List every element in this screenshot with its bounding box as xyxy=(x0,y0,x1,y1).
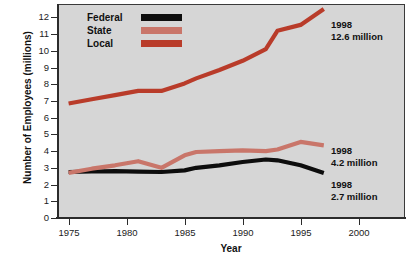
x-tick xyxy=(243,218,244,225)
x-tick xyxy=(69,218,70,225)
y-tick xyxy=(51,218,58,219)
x-tick xyxy=(301,218,302,225)
y-axis-title: Number of Employees (millions) xyxy=(22,13,33,203)
y-tick xyxy=(51,68,58,69)
x-tick-label: 1990 xyxy=(223,227,263,238)
x-tick-label: 1975 xyxy=(49,227,89,238)
y-tick xyxy=(51,185,58,186)
y-tick xyxy=(51,84,58,85)
annotation-local-value: 12.6 million xyxy=(331,31,383,43)
legend-item-federal: Federal xyxy=(87,12,182,23)
x-tick xyxy=(127,218,128,225)
annotation-federal-value: 2.7 million xyxy=(331,191,377,203)
y-tick xyxy=(51,101,58,102)
y-tick xyxy=(51,51,58,52)
y-tick xyxy=(51,201,58,202)
annotation-local-year: 1998 xyxy=(331,19,383,31)
legend-label-federal: Federal xyxy=(87,12,135,23)
y-tick xyxy=(51,17,58,18)
annotation-local: 1998 12.6 million xyxy=(331,19,383,42)
annotation-federal-year: 1998 xyxy=(331,179,377,191)
x-tick-label: 1985 xyxy=(165,227,205,238)
y-tick-label: 0 xyxy=(25,213,49,222)
y-tick xyxy=(51,151,58,152)
legend-swatch-local xyxy=(141,40,182,47)
legend-item-state: State xyxy=(87,25,182,36)
x-tick-label: 1995 xyxy=(281,227,321,238)
legend-swatch-federal xyxy=(141,14,182,21)
x-tick xyxy=(185,218,186,225)
y-tick xyxy=(51,118,58,119)
x-axis-line xyxy=(56,217,406,219)
legend-label-local: Local xyxy=(87,38,135,49)
x-tick-label: 2000 xyxy=(339,227,379,238)
legend-label-state: State xyxy=(87,25,135,36)
legend-item-local: Local xyxy=(87,38,182,49)
y-tick xyxy=(51,34,58,35)
chart-root: 0123456789101112 19751980198519901995200… xyxy=(0,0,414,259)
x-axis-title: Year xyxy=(57,243,405,254)
annotation-state-value: 4.2 million xyxy=(331,157,377,169)
legend-swatch-state xyxy=(141,27,182,34)
annotation-state: 1998 4.2 million xyxy=(331,145,377,168)
x-tick-label: 1980 xyxy=(107,227,147,238)
annotation-federal: 1998 2.7 million xyxy=(331,179,377,202)
y-axis-line xyxy=(57,4,59,219)
x-tick xyxy=(359,218,360,225)
y-tick xyxy=(51,168,58,169)
legend: Federal State Local xyxy=(87,12,182,51)
annotation-state-year: 1998 xyxy=(331,145,377,157)
y-tick xyxy=(51,134,58,135)
